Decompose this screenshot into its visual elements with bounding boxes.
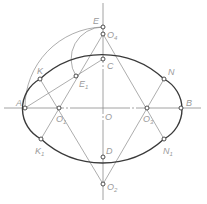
label-N1: N1	[163, 146, 173, 157]
line-O2-K	[40, 79, 103, 184]
line-O2-N	[103, 79, 164, 184]
label-A: A	[15, 98, 22, 108]
point-C	[101, 57, 105, 61]
point-K1	[39, 137, 43, 141]
point-E1	[74, 74, 78, 78]
line-O4-K1	[41, 34, 103, 139]
point-B	[179, 106, 183, 110]
label-N: N	[168, 67, 175, 77]
label-O4: O4	[107, 30, 118, 41]
label-C: C	[107, 61, 114, 71]
label-E: E	[93, 16, 100, 26]
label-O: O	[105, 112, 112, 122]
point-O1	[57, 106, 61, 110]
point-K	[38, 77, 42, 81]
point-O4	[101, 32, 105, 36]
line-O4-N1	[103, 34, 164, 139]
point-D	[101, 155, 105, 159]
label-E1: E1	[79, 79, 88, 90]
point-E	[101, 25, 105, 29]
point-A	[23, 106, 27, 110]
ellipse-outline	[22, 55, 182, 163]
label-O2: O2	[107, 182, 118, 193]
label-O3: O3	[143, 114, 154, 125]
label-B: B	[186, 98, 192, 108]
label-K: K	[37, 66, 44, 76]
point-N	[162, 77, 166, 81]
point-O3	[145, 106, 149, 110]
ellipse-construction-diagram: E O4 C K N E1 A B O O1 O3 K1 N1 D O2	[0, 0, 207, 204]
point-N1	[162, 137, 166, 141]
point-O2	[101, 182, 105, 186]
label-D: D	[106, 146, 113, 156]
label-K1: K1	[35, 146, 44, 157]
label-O1: O1	[56, 114, 66, 125]
